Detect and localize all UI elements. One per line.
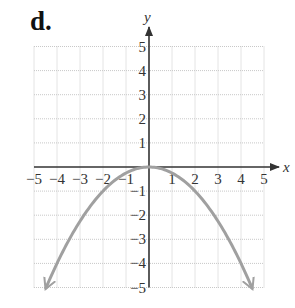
y-tick-label: 3	[139, 87, 147, 103]
x-tick-label: 5	[260, 171, 268, 187]
y-tick-label: −5	[130, 280, 146, 296]
parabola-chart: xy −5−4−3−2−11234554321−1−2−3−4−5	[0, 0, 295, 308]
x-tick-label: −5	[26, 171, 42, 187]
y-tick-label: −4	[130, 255, 146, 271]
y-tick-label: −1	[130, 183, 146, 199]
y-tick-label: 1	[139, 135, 147, 151]
x-tick-label: 3	[214, 171, 222, 187]
x-tick-label: 2	[191, 171, 199, 187]
y-tick-label: 5	[139, 39, 147, 55]
axes: xy	[34, 9, 290, 288]
y-tick-label: −2	[130, 207, 146, 223]
x-axis-label: x	[282, 159, 290, 175]
x-tick-label: 4	[237, 171, 245, 187]
y-tick-label: −3	[130, 231, 146, 247]
x-tick-label: −3	[72, 171, 88, 187]
x-tick-label: −4	[49, 171, 65, 187]
y-tick-label: 2	[139, 111, 147, 127]
y-tick-label: 4	[139, 63, 147, 79]
y-axis-label: y	[142, 9, 151, 25]
